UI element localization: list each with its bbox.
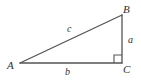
right-angle-marker-icon: [114, 55, 122, 63]
triangle-drawing: [0, 0, 141, 82]
side-label-hypotenuse: c: [67, 24, 71, 34]
vertex-label-b: B: [123, 4, 130, 15]
side-label-base: b: [65, 67, 70, 77]
vertex-label-c: C: [123, 64, 130, 75]
right-triangle-figure: A B C c a b: [0, 0, 141, 82]
side-c-line: [20, 15, 122, 63]
vertex-label-a: A: [7, 60, 14, 71]
side-label-vertical: a: [128, 35, 133, 45]
